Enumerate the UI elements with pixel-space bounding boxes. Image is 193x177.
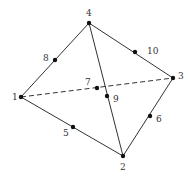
node-label-2: 2: [120, 162, 126, 172]
node-labels: 12345678910: [12, 8, 184, 172]
node-4: [87, 21, 91, 25]
node-9: [105, 94, 109, 98]
diagram-svg: 12345678910: [0, 0, 193, 177]
node-label-3: 3: [178, 71, 184, 81]
node-label-10: 10: [147, 46, 159, 56]
node-5: [71, 125, 75, 129]
edge-4-2: [89, 23, 123, 156]
tetrahedron-diagram: 12345678910: [0, 0, 193, 177]
node-8: [53, 58, 57, 62]
node-label-5: 5: [63, 128, 69, 138]
node-label-7: 7: [85, 77, 91, 87]
node-label-4: 4: [86, 8, 92, 18]
node-3: [171, 76, 175, 80]
node-label-6: 6: [156, 114, 162, 124]
node-7: [95, 86, 99, 90]
node-2: [121, 154, 125, 158]
node-label-1: 1: [12, 92, 18, 102]
node-10: [133, 50, 137, 54]
edge-2-3: [123, 78, 173, 156]
node-label-9: 9: [113, 94, 119, 104]
node-6: [148, 114, 152, 118]
node-label-8: 8: [43, 53, 49, 63]
nodes: [19, 21, 175, 158]
node-1: [19, 95, 23, 99]
edge-4-3: [89, 23, 173, 78]
